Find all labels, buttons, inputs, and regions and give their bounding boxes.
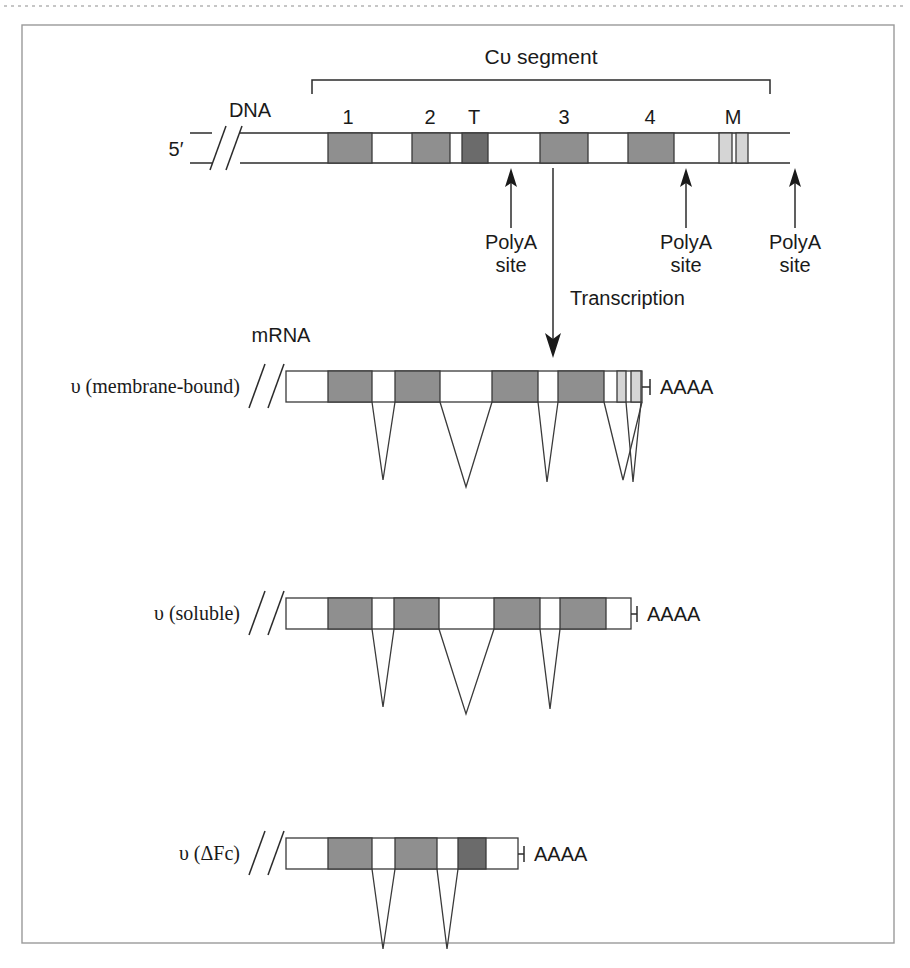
mrna-delta-fc-label: υ (ΔFc) [179, 842, 240, 865]
dna-exon-label-1: 1 [342, 106, 353, 128]
mrna-sol-exon-2-box [394, 598, 439, 629]
mrna-delta-fc-bar [286, 838, 518, 869]
mrna-header-label: mRNA [252, 324, 312, 346]
dna-exon-label-3: 3 [558, 106, 569, 128]
dna-exon-1-box [328, 133, 372, 163]
polya-site-3-label-line1: PolyA [769, 231, 822, 253]
dna-exon-M1-box [719, 133, 732, 163]
mrna-mb-exon-3-box [492, 371, 538, 402]
dna-label: DNA [229, 99, 272, 121]
mrna-soluble-label: υ (soluble) [154, 602, 240, 625]
dna-exon-label-M: M [725, 106, 742, 128]
polya-site-1-label-line2: site [495, 254, 526, 276]
dna-exon-label-4: 4 [644, 106, 655, 128]
mrna-dfc-exon-2-box [395, 838, 437, 869]
mrna-membrane-bound-label: υ (membrane-bound) [71, 375, 240, 398]
mrna-dfc-exon-T-box [458, 838, 486, 869]
mrna-sol-exon-4-box [560, 598, 606, 629]
dna-exon-T-box [462, 133, 488, 163]
figure-root: Cυ segment DNA 5′ 1 2 T 3 4 M PolyA site [0, 0, 910, 968]
polya-site-1-label-line1: PolyA [485, 231, 538, 253]
mrna-dfc-tail-label: AAAA [534, 843, 588, 865]
splicing-diagram-svg: Cυ segment DNA 5′ 1 2 T 3 4 M PolyA site [0, 0, 910, 968]
polya-site-2-label-line2: site [670, 254, 701, 276]
mrna-sol-exon-3-box [494, 598, 540, 629]
mrna-mb-exon-2-box [395, 371, 440, 402]
mrna-mb-exon-M1-box [617, 371, 626, 402]
polya-site-3-label-line2: site [779, 254, 810, 276]
mrna-mb-exon-M2-box [631, 371, 641, 402]
five-prime-label: 5′ [169, 138, 184, 160]
dna-exon-label-2: 2 [424, 106, 435, 128]
mrna-mb-exon-1-box [328, 371, 372, 402]
cu-segment-label: Cυ segment [484, 45, 597, 68]
polya-site-2-label-line1: PolyA [660, 231, 713, 253]
mrna-mb-exon-4-box [558, 371, 604, 402]
mrna-mb-tail-label: AAAA [660, 376, 714, 398]
canvas-background [0, 0, 910, 968]
mrna-dfc-exon-1-box [328, 838, 372, 869]
mrna-sol-exon-1-box [328, 598, 372, 629]
mrna-soluble-bar [286, 598, 631, 629]
mrna-sol-tail-label: AAAA [647, 603, 701, 625]
dna-exon-label-T: T [468, 106, 480, 128]
dna-exon-2-box [412, 133, 450, 163]
dna-exon-4-box [628, 133, 674, 163]
dna-exon-M2-box [736, 133, 748, 163]
mrna-membrane-bound-bar [286, 371, 642, 402]
dna-exon-3-box [540, 133, 588, 163]
transcription-label: Transcription [570, 287, 685, 309]
